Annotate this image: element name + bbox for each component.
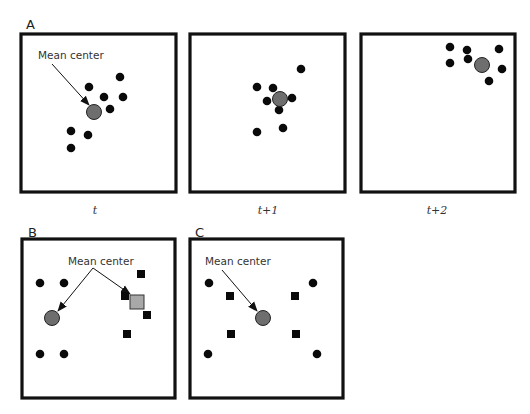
mean-center-callout: Mean center bbox=[205, 255, 271, 267]
panel-a-frame-t1 bbox=[190, 34, 345, 192]
panel-a-frame-t: Mean center bbox=[21, 34, 176, 192]
point-square bbox=[291, 292, 299, 300]
panel-c: C Mean center bbox=[190, 225, 343, 398]
time-label-t: t bbox=[93, 204, 98, 217]
point-dot bbox=[60, 279, 69, 288]
point-dot bbox=[205, 279, 214, 288]
point-dot bbox=[463, 46, 472, 55]
mean-center-circle bbox=[87, 105, 102, 120]
point-dot bbox=[495, 45, 504, 54]
mean-center-figure: A Mean center t t+1 t+2 B Mean center C bbox=[0, 0, 530, 414]
point-dot bbox=[446, 43, 455, 52]
point-dot bbox=[60, 350, 69, 359]
point-dot bbox=[100, 93, 109, 102]
point-square bbox=[292, 330, 300, 338]
point-dot bbox=[119, 93, 128, 102]
panel-a-letter: A bbox=[26, 17, 35, 32]
point-dot bbox=[116, 73, 125, 82]
point-square bbox=[143, 311, 151, 319]
mean-center-callout: Mean center bbox=[38, 49, 104, 61]
point-square bbox=[226, 292, 234, 300]
time-label-t1: t+1 bbox=[258, 204, 279, 217]
point-square bbox=[123, 330, 131, 338]
point-dot bbox=[253, 83, 262, 92]
mean-center-circle bbox=[45, 311, 60, 326]
point-dot bbox=[269, 84, 278, 93]
mean-center-callout: Mean center bbox=[68, 255, 134, 267]
point-dot bbox=[297, 65, 306, 74]
mean-center-circle bbox=[475, 58, 490, 73]
point-dot bbox=[84, 131, 93, 140]
point-dot bbox=[288, 94, 297, 103]
point-dot bbox=[36, 279, 45, 288]
point-square bbox=[137, 270, 145, 278]
time-label-t2: t+2 bbox=[427, 204, 448, 217]
point-square bbox=[121, 292, 129, 300]
mean-center-circle bbox=[256, 311, 271, 326]
panel-a: A Mean center t t+1 t+2 bbox=[21, 17, 515, 217]
point-square bbox=[227, 330, 235, 338]
point-dot bbox=[309, 279, 318, 288]
point-dot bbox=[275, 106, 284, 115]
point-dot bbox=[313, 350, 322, 359]
frame-border bbox=[361, 34, 515, 192]
point-dot bbox=[485, 77, 494, 86]
point-dot bbox=[263, 97, 272, 106]
mean-center-circle bbox=[273, 92, 288, 107]
point-dot bbox=[204, 350, 213, 359]
point-dot bbox=[67, 144, 76, 153]
panel-a-frame-t2 bbox=[361, 34, 515, 192]
point-dot bbox=[253, 128, 262, 137]
frame-border bbox=[190, 34, 345, 192]
point-dot bbox=[85, 83, 94, 92]
point-dot bbox=[464, 55, 473, 64]
point-dot bbox=[446, 59, 455, 68]
point-dot bbox=[36, 350, 45, 359]
point-dot bbox=[67, 127, 76, 136]
point-dot bbox=[498, 65, 507, 74]
panel-b: B Mean center bbox=[22, 225, 175, 398]
point-dot bbox=[106, 105, 115, 114]
point-dot bbox=[279, 124, 288, 133]
mean-center-square bbox=[130, 295, 144, 309]
